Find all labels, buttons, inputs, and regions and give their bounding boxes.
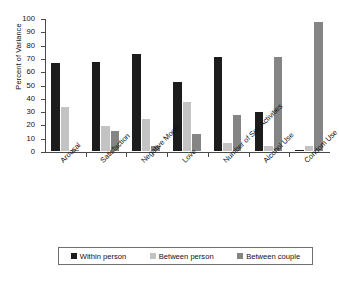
x-axis-tick: [126, 153, 127, 157]
y-axis-tick-label: 50: [13, 82, 35, 90]
y-axis-tick-label: 100: [13, 15, 35, 23]
x-axis-tick: [167, 153, 168, 157]
x-axis-tick: [289, 153, 290, 157]
legend-item-within-person[interactable]: Within person: [71, 252, 126, 261]
bar: [61, 107, 70, 151]
light-gray-square-swatch-icon: [150, 253, 156, 259]
y-axis-tick: [41, 139, 45, 140]
y-axis-tick-label: 60: [13, 68, 35, 76]
y-axis-tick-label: 80: [13, 42, 35, 50]
medium-gray-square-swatch-icon: [237, 253, 243, 259]
y-axis-tick: [41, 32, 45, 33]
y-axis-tick: [41, 46, 45, 47]
y-axis-tick: [41, 99, 45, 100]
black-square-swatch-icon: [71, 253, 77, 259]
x-axis-tick: [208, 153, 209, 157]
bar: [295, 150, 304, 151]
x-axis-tick: [86, 153, 87, 157]
chart-legend: Within person Between person Between cou…: [58, 247, 313, 265]
y-axis-tick-label: 40: [13, 95, 35, 103]
y-axis-tick: [41, 59, 45, 60]
legend-label: Between couple: [246, 252, 300, 261]
legend-item-between-person[interactable]: Between person: [150, 252, 214, 261]
bar: [214, 57, 223, 151]
y-axis-tick: [41, 86, 45, 87]
y-axis-tick-label: 20: [13, 121, 35, 129]
bar: [132, 54, 141, 151]
y-axis-tick-label: 90: [13, 28, 35, 36]
y-axis-tick-label: 30: [13, 108, 35, 116]
bar: [51, 63, 60, 151]
legend-label: Between person: [159, 252, 214, 261]
bar: [173, 82, 182, 151]
y-axis-tick-label: 10: [13, 135, 35, 143]
legend-label: Within person: [80, 252, 126, 261]
bar: [314, 22, 323, 151]
y-axis-tick: [41, 72, 45, 73]
y-axis-tick-label: 70: [13, 55, 35, 63]
bar: [92, 62, 101, 151]
legend-item-between-couple[interactable]: Between couple: [237, 252, 300, 261]
y-axis-tick: [41, 125, 45, 126]
bar: [183, 102, 192, 151]
y-axis-tick: [41, 19, 45, 20]
y-axis-tick-label: 0: [13, 148, 35, 156]
x-axis-tick: [249, 153, 250, 157]
y-axis-line: [45, 19, 46, 153]
y-axis-tick: [41, 112, 45, 113]
bar: [142, 119, 151, 151]
y-axis-tick: [41, 152, 45, 153]
